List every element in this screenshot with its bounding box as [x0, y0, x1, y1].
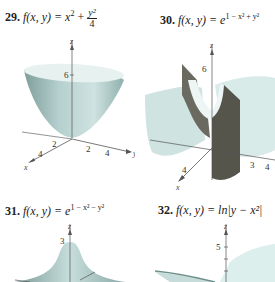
- plot-31-surface: z 3: [0, 222, 135, 282]
- z-tick-label: 3: [60, 236, 65, 246]
- plot-32-surface: z 5: [140, 222, 275, 282]
- x-tick-label: 2: [52, 139, 57, 149]
- exponent: 1 − x² − y²: [70, 203, 104, 212]
- problem-number: 31.: [5, 204, 20, 218]
- x-axis-back: [22, 132, 72, 139]
- z-axis-label: z: [69, 40, 74, 46]
- problem-number: 32.: [158, 203, 173, 217]
- problem-31-title: 31. f(x, y) = e1 − x² − y²: [5, 203, 104, 219]
- function-lhs: f(x, y) = e: [178, 13, 225, 27]
- x-tick-label: 4: [38, 149, 43, 159]
- y-tick-label: 4: [265, 162, 270, 172]
- plot-29-axes: x 2 4 y 2 4: [0, 130, 135, 180]
- y-tick-label: 2: [86, 144, 91, 154]
- z-tick-label: 6: [202, 64, 207, 74]
- x-tick-label: 4: [182, 165, 187, 175]
- fraction: y²4: [87, 8, 96, 29]
- x-axis-arrow: [28, 158, 35, 163]
- z-axis-label: z: [209, 41, 214, 50]
- problem-number: 29.: [5, 10, 20, 24]
- problem-32-title: 32. f(x, y) = ln|y − x²|: [158, 203, 262, 218]
- exponent: 1 − x² + y²: [225, 12, 259, 21]
- fraction-denominator: 4: [87, 19, 96, 29]
- z-tick-label: 5: [216, 242, 221, 252]
- z-axis-label: z: [223, 222, 228, 231]
- y-axis-label: y: [132, 149, 135, 158]
- y-axis: [72, 139, 130, 152]
- surface-dark-fold-right: [212, 85, 240, 180]
- z-axis-label: z: [67, 222, 72, 231]
- plot-30-surface: z 6 x 4 3 4: [140, 40, 275, 190]
- problem-30-title: 30. f(x, y) = e1 − x² + y²: [160, 12, 259, 28]
- x-axis-label: x: [23, 163, 28, 172]
- x-axis: [30, 139, 72, 162]
- x-axis-label: x: [175, 183, 180, 190]
- log-surface-right: [220, 244, 275, 282]
- problem-29-title: 29. f(x, y) = x2 + y²4: [5, 8, 97, 29]
- function-lhs: f(x, y) = ln|y − x²|: [176, 203, 262, 217]
- z-tick-label: 6: [64, 70, 69, 80]
- y-axis-arrow: [126, 149, 132, 154]
- plus-sign: +: [74, 10, 87, 24]
- x-axis: [180, 148, 212, 180]
- function-lhs: f(x, y) = e: [23, 204, 70, 218]
- y-tick-label: 4: [105, 148, 110, 158]
- problem-number: 30.: [160, 13, 175, 27]
- function-lhs: f(x, y) =: [23, 10, 65, 24]
- y-tick-label: 3: [250, 160, 255, 170]
